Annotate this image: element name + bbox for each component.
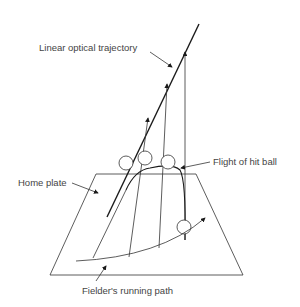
field-plane — [50, 174, 243, 275]
flight-label: Flight of hit ball — [213, 157, 277, 167]
sight-line-2 — [129, 118, 148, 257]
sight-line-1 — [93, 190, 126, 258]
home-plate-leader-arrow — [72, 183, 98, 193]
ball-icon — [119, 151, 191, 234]
home-plate-label: Home plate — [18, 178, 67, 188]
trajectory-label: Linear optical trajectory — [39, 43, 137, 53]
ball-flight-curve — [126, 166, 185, 240]
running-path-label: Fielder's running path — [82, 286, 173, 296]
trajectory-leader-arrow — [150, 52, 172, 67]
running-path-leader-arrow — [96, 266, 106, 281]
